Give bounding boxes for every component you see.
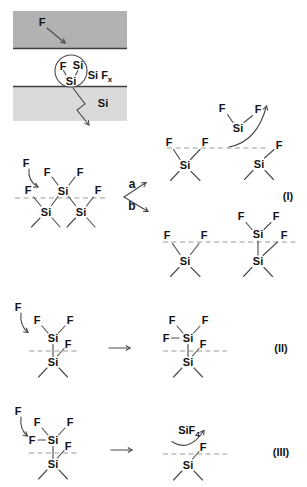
branch-b-arrow xyxy=(124,197,148,212)
reaction-I-product-b-graphics xyxy=(163,223,299,277)
lattice-bond-stub xyxy=(32,218,41,227)
figure-canvas: F F Si Si Si Fx Si F F F Si F F Si Si a … xyxy=(0,0,307,487)
diagram-graphics xyxy=(0,0,307,487)
lattice-bond-stub xyxy=(244,268,253,277)
lattice-bond-stub xyxy=(39,470,48,479)
bond-line xyxy=(42,428,48,435)
bond-line xyxy=(263,242,278,256)
bond-line xyxy=(191,244,200,255)
bond-line xyxy=(265,150,275,159)
surface-schematic xyxy=(13,11,127,125)
reaction-III-graphics xyxy=(21,417,227,480)
lattice-bond-stub xyxy=(59,368,68,377)
lattice-bond-stub xyxy=(67,218,76,227)
bond-line xyxy=(177,326,183,333)
desorption-arrow xyxy=(229,106,267,147)
reaction-I-product-a-graphics xyxy=(167,106,274,181)
bond-line xyxy=(59,326,66,333)
lattice-bond-stub xyxy=(174,471,183,480)
incoming-f-arrow xyxy=(29,169,38,187)
bond-line xyxy=(173,244,181,255)
branch-a-arrow xyxy=(124,183,146,198)
lattice-bond-stub xyxy=(191,172,200,181)
lattice-bond-stub xyxy=(191,268,200,277)
bond-line xyxy=(228,115,234,123)
bond-line xyxy=(69,177,75,185)
bond-line xyxy=(34,197,42,206)
bond-line xyxy=(174,150,181,160)
substrate-band xyxy=(13,86,127,121)
lattice-bond-stub xyxy=(59,470,68,479)
bond-line xyxy=(246,223,252,230)
bond-line xyxy=(194,326,201,333)
reaction-I-reactant-graphics xyxy=(15,169,108,227)
bond-line xyxy=(193,349,200,357)
sifx-reaction-circle xyxy=(55,55,87,87)
reaction-II-graphics xyxy=(21,313,227,377)
plasma-band xyxy=(13,11,127,48)
lattice-bond-stub xyxy=(245,171,254,180)
incoming-f-arrow xyxy=(21,313,28,333)
bond-line xyxy=(52,177,58,185)
incoming-f-arrow xyxy=(21,417,28,436)
lattice-bond-stub xyxy=(87,218,95,227)
branch-fork xyxy=(124,183,148,212)
lattice-bond-stub xyxy=(39,368,48,377)
bond-line xyxy=(193,452,200,460)
lattice-bond-stub xyxy=(265,171,274,180)
bond-line xyxy=(58,451,65,459)
bond-line xyxy=(59,428,66,435)
bond-line xyxy=(42,326,48,333)
bond-line xyxy=(264,223,271,230)
desorption-arrow xyxy=(172,431,204,446)
bond-line xyxy=(191,150,201,160)
lattice-bond-stub xyxy=(52,218,60,227)
lattice-bond-stub xyxy=(171,172,180,181)
bond-line xyxy=(58,349,65,357)
lattice-bond-stub xyxy=(174,368,183,377)
lattice-bond-stub xyxy=(264,268,273,277)
lattice-bond-stub xyxy=(171,268,180,277)
bond-line xyxy=(244,116,253,123)
bond-line xyxy=(69,197,76,206)
lattice-bond-stub xyxy=(194,368,203,377)
lattice-bond-stub xyxy=(194,471,203,480)
